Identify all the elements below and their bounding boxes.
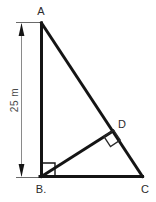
geometry-figure: 25 m A B. C D: [0, 0, 156, 202]
triangle-edges: [40, 23, 143, 177]
segment-ac: [42, 23, 143, 177]
figure-canvas: 25 m A B. C D: [0, 0, 156, 202]
vertex-label-a: A: [37, 5, 45, 17]
segment-bd: [42, 131, 114, 177]
dimension-group: 25 m: [9, 23, 40, 178]
vertex-label-c: C: [141, 183, 149, 195]
dimension-arrowhead-top-icon: [19, 23, 25, 36]
dimension-arrowhead-bottom-icon: [19, 164, 25, 177]
dimension-label: 25 m: [9, 88, 20, 112]
vertex-label-d: D: [118, 118, 126, 130]
vertex-label-b: B.: [36, 183, 46, 195]
